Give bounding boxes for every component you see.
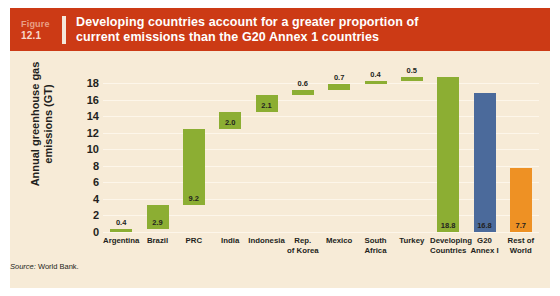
source-keyword: Source: bbox=[10, 262, 36, 271]
x-axis-label-line: of Korea bbox=[285, 246, 321, 256]
x-axis-label-developing-countries: DevelopingCountries bbox=[430, 236, 466, 255]
figure-number-block: Figure 12.1 bbox=[10, 19, 62, 41]
y-axis-tick-14: 14 bbox=[87, 111, 99, 122]
x-axis-label-rest-of-world: Rest ofWorld bbox=[503, 236, 539, 255]
bar-developing-countries bbox=[437, 77, 459, 232]
bar-value-label: 0.4 bbox=[356, 70, 396, 79]
x-axis-label-india: India bbox=[212, 236, 248, 246]
x-axis-label-line: Turkey bbox=[394, 236, 430, 246]
y-axis-tick-6: 6 bbox=[93, 177, 99, 188]
x-axis-label-turkey: Turkey bbox=[394, 236, 430, 246]
bar-turkey bbox=[401, 77, 423, 81]
figure-title-line-1: Developing countries account for a great… bbox=[76, 15, 418, 30]
x-axis-label-brazil: Brazil bbox=[139, 236, 175, 246]
source-note: Source: World Bank. bbox=[10, 262, 79, 271]
figure-title: Developing countries account for a great… bbox=[76, 15, 418, 45]
x-axis-label-line: World bbox=[503, 246, 539, 256]
x-axis-label-line: Mexico bbox=[321, 236, 357, 246]
bar-value-label: 0.7 bbox=[319, 73, 359, 82]
x-axis-label-line: Annex I bbox=[466, 246, 502, 256]
x-axis-label-line: Developing bbox=[430, 236, 466, 246]
bar-value-label: 0.4 bbox=[101, 218, 141, 227]
x-axis-label-mexico: Mexico bbox=[321, 236, 357, 246]
y-axis-tick-4: 4 bbox=[93, 193, 99, 204]
x-axis-label-g20-annex-i: G20Annex I bbox=[466, 236, 502, 255]
y-axis-tick-0: 0 bbox=[93, 227, 99, 238]
x-axis-label-argentina: Argentina bbox=[103, 236, 139, 246]
plot-area: 0.42.99.22.02.10.60.70.40.518.816.87.7 bbox=[103, 75, 539, 232]
x-axis-label-line: Brazil bbox=[139, 236, 175, 246]
x-axis-label-indonesia: Indonesia bbox=[248, 236, 284, 246]
y-axis-tick-10: 10 bbox=[87, 144, 99, 155]
source-text: World Bank. bbox=[36, 262, 79, 271]
bar-argentina bbox=[110, 229, 132, 232]
figure-number: 12.1 bbox=[21, 30, 62, 41]
figure-word: Figure bbox=[21, 19, 62, 30]
bar-mexico bbox=[328, 84, 350, 90]
x-axis-label-line: India bbox=[212, 236, 248, 246]
chart-panel: Annual greenhouse gas emissions (GT) 024… bbox=[10, 51, 550, 288]
x-axis-label-line: PRC bbox=[176, 236, 212, 246]
x-axis-label-line: Africa bbox=[357, 246, 393, 256]
y-axis-tick-16: 16 bbox=[87, 94, 99, 105]
figure-container: Figure 12.1 Developing countries account… bbox=[0, 0, 560, 296]
bar-value-label: 7.7 bbox=[501, 221, 541, 230]
bar-south-africa bbox=[365, 81, 387, 84]
y-axis-tick-labels: 024681012141618 bbox=[73, 69, 99, 232]
x-axis-label-rep-of-korea: Rep.of Korea bbox=[285, 236, 321, 255]
y-axis-title: Annual greenhouse gas emissions (GT) bbox=[29, 44, 55, 204]
figure-header-banner: Figure 12.1 Developing countries account… bbox=[10, 8, 550, 51]
bar-value-label: 0.6 bbox=[283, 79, 323, 88]
x-axis-label-line: Rep. bbox=[285, 236, 321, 246]
y-axis-tick-12: 12 bbox=[87, 127, 99, 138]
figure-title-line-2: current emissions than the G20 Annex 1 c… bbox=[76, 30, 418, 45]
y-axis-tick-2: 2 bbox=[93, 210, 99, 221]
bar-value-label: 9.2 bbox=[174, 194, 214, 203]
gridline bbox=[103, 232, 539, 233]
x-axis-label-line: South bbox=[357, 236, 393, 246]
bar-value-label: 2.1 bbox=[247, 101, 287, 110]
bar-value-label: 16.8 bbox=[465, 221, 505, 230]
x-axis-label-line: G20 bbox=[466, 236, 502, 246]
y-axis-tick-8: 8 bbox=[93, 160, 99, 171]
bar-value-label: 2.9 bbox=[138, 218, 178, 227]
y-axis-tick-18: 18 bbox=[87, 78, 99, 89]
x-axis-label-line: Countries bbox=[430, 246, 466, 256]
bar-value-label: 0.5 bbox=[392, 66, 432, 75]
bar-value-label: 2.0 bbox=[210, 118, 250, 127]
x-axis-label-line: Argentina bbox=[103, 236, 139, 246]
bar-g20-annex-i bbox=[474, 93, 496, 232]
x-axis-label-prc: PRC bbox=[176, 236, 212, 246]
x-axis-label-line: Indonesia bbox=[248, 236, 284, 246]
header-divider bbox=[62, 16, 66, 44]
x-axis-label-south-africa: SouthAfrica bbox=[357, 236, 393, 255]
bar-rep-of-korea bbox=[292, 90, 314, 95]
bar-value-label: 18.8 bbox=[428, 221, 468, 230]
x-axis-category-labels: ArgentinaBrazilPRCIndiaIndonesiaRep.of K… bbox=[103, 236, 539, 266]
x-axis-label-line: Rest of bbox=[503, 236, 539, 246]
